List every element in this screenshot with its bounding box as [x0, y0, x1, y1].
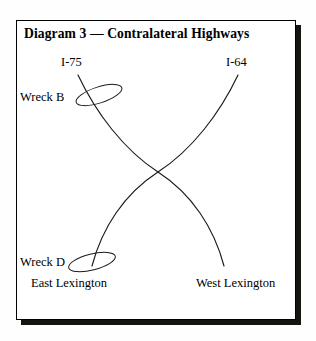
label-wreck-b: Wreck B	[20, 91, 64, 104]
diagram-title: Diagram 3 — Contralateral Highways	[24, 27, 249, 41]
diagram-canvas: Diagram 3 — Contralateral Highways I-75 …	[0, 0, 316, 341]
figure-frame	[16, 20, 296, 320]
label-road-i75: I-75	[61, 56, 82, 69]
label-west-lexington: West Lexington	[196, 277, 275, 290]
label-wreck-d: Wreck D	[20, 256, 65, 269]
label-road-i64: I-64	[226, 56, 247, 69]
label-east-lexington: East Lexington	[31, 277, 107, 290]
